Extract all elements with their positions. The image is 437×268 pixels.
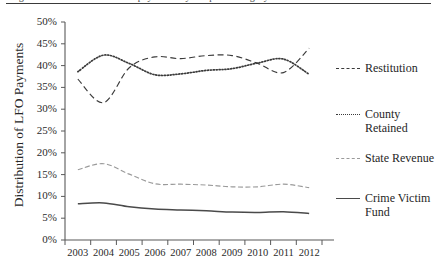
legend-label: County Retained (365, 108, 408, 135)
y-axis-tick-label: 45% (23, 37, 57, 49)
legend-item-crime-victim-fund[interactable]: Crime Victim Fund (335, 192, 430, 219)
legend-item-restitution[interactable]: Restitution (335, 62, 418, 76)
legend-label: State Revenue (365, 152, 434, 166)
legend-item-county-retained[interactable]: County Retained (335, 108, 408, 135)
y-axis-tick-label: 40% (23, 59, 57, 71)
legend-swatch-dashed-icon (335, 62, 361, 74)
y-axis-tick-label: 50% (23, 15, 57, 27)
y-axis-tick-label: 30% (23, 102, 57, 114)
legend-swatch-dotted-icon (335, 108, 361, 120)
y-axis-tick-label: 10% (23, 189, 57, 201)
y-axis-tick-label: 15% (23, 168, 57, 180)
y-axis-tick-label: 35% (23, 80, 57, 92)
legend-swatch-solid-icon (335, 192, 361, 204)
series-line-crime-victim-fund (78, 203, 309, 214)
legend-label: Restitution (365, 62, 418, 76)
y-axis-tick-label: 0% (23, 233, 57, 245)
series-layer (78, 48, 309, 213)
x-axis-tick-label: 2012 (292, 247, 326, 258)
figure-container: Figure 3. Distribution of LFO payments b… (0, 0, 437, 268)
legend-label: Crime Victim Fund (365, 192, 430, 219)
series-line-state-revenue (78, 164, 309, 188)
y-axis-tick-label: 20% (23, 146, 57, 158)
y-axis-tick-label: 25% (23, 124, 57, 136)
legend-item-state-revenue[interactable]: State Revenue (335, 152, 434, 166)
y-axis-tick-label: 5% (23, 211, 57, 223)
legend-swatch-dashdot-icon (335, 152, 361, 164)
